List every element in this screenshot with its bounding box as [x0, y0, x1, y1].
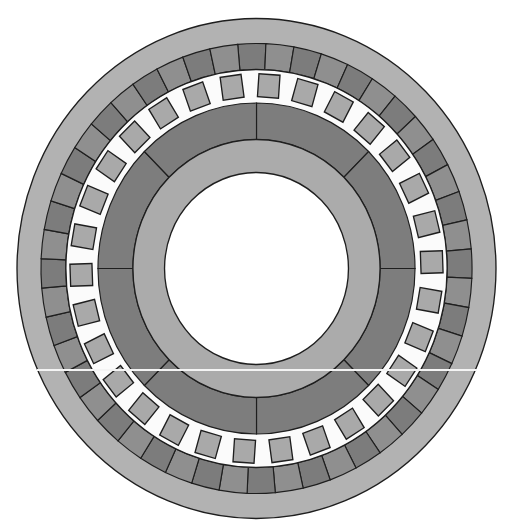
central-bore: [165, 173, 349, 365]
stator-segment: [265, 44, 294, 73]
stator-segment: [238, 44, 266, 71]
stator-segment: [273, 463, 303, 493]
concentric-rings: [17, 19, 496, 519]
slot-square: [73, 299, 99, 326]
slot-square: [257, 74, 280, 98]
slot-square: [70, 263, 93, 286]
stator-segment: [41, 259, 67, 288]
slot-square: [71, 224, 96, 250]
stator-segment: [42, 286, 71, 317]
stator-segment: [41, 229, 69, 259]
slot-square: [416, 287, 441, 313]
slot-square: [233, 439, 256, 463]
slot-square: [269, 437, 293, 463]
slot-square: [420, 251, 443, 274]
stator-segment: [210, 44, 240, 74]
stator-segment: [444, 277, 472, 307]
stator-segment: [446, 249, 472, 278]
slot-square: [220, 74, 244, 100]
stator-segment: [219, 464, 248, 493]
machine-cross-section-diagram: [0, 0, 521, 532]
slot-square: [413, 211, 439, 238]
stator-segment: [247, 467, 275, 494]
stator-segment: [443, 220, 472, 251]
